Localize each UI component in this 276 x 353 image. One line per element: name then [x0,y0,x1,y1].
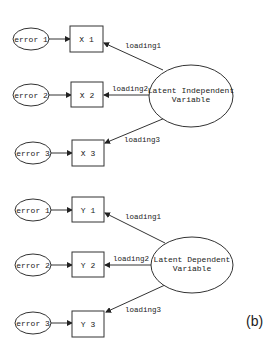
latent-label-line2: Variable [172,95,211,104]
error-node-y3: error 3 [15,312,51,334]
loading-label: loading1 [125,213,162,221]
error-node-x3: error 3 [15,142,51,164]
error-node-y2: error 2 [15,254,51,276]
error-label: error 3 [16,149,50,158]
loading-label: loading2 [112,85,148,93]
latent-label-line1: Latent Dependent [154,255,231,264]
indicator-label: X 2 [80,91,95,100]
indicator-box-y3: Y 3 [72,311,104,337]
indicator-label: Y 2 [81,261,96,270]
loading-label: loading3 [124,136,161,144]
sem-diagram: error 1 error 2 error 3 X 1 X 2 X 3 [0,0,276,353]
indicator-label: Y 3 [81,320,96,329]
error-node-x1: error 1 [13,28,49,50]
indicator-box-x2: X 2 [71,82,103,107]
indicator-box-y1: Y 1 [72,197,104,222]
panel-dependent: error 1 error 2 error 3 Y 1 Y 2 Y 3 load… [15,197,233,337]
error-node-y1: error 1 [15,199,51,221]
error-node-x2: error 2 [13,84,49,106]
indicator-box-x1: X 1 [70,26,103,52]
error-label: error 2 [16,261,50,270]
loading-label: loading3 [125,306,162,314]
panel-independent: error 1 error 2 error 3 X 1 X 2 X 3 [13,26,234,166]
indicator-label: Y 1 [81,206,96,215]
figure-label: (b) [246,313,263,329]
indicator-label: X 3 [81,149,96,158]
indicator-box-y2: Y 2 [72,252,104,277]
loading-label: loading1 [125,42,162,50]
latent-label-line2: Variable [173,264,212,273]
latent-node-dependent: Latent Dependent Variable [151,237,233,293]
error-label: error 1 [16,206,50,215]
latent-label-line1: Latent Independent [148,86,234,95]
error-label: error 1 [14,35,48,44]
error-label: error 3 [16,319,50,328]
indicator-box-x3: X 3 [72,140,104,166]
indicator-label: X 1 [79,35,94,44]
latent-node-independent: Latent Independent Variable [148,65,234,127]
error-label: error 2 [14,91,48,100]
loading-label: loading2 [113,255,149,263]
